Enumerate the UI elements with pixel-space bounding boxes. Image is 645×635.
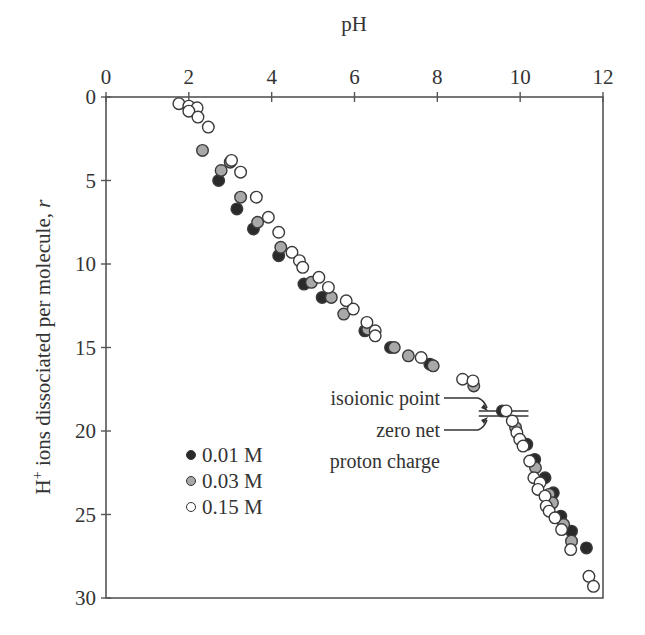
y-tick-label: 5 [86, 169, 97, 193]
y-tick-label: 10 [75, 252, 96, 276]
y-title-superscript: + [30, 471, 45, 479]
plot-frame [106, 97, 603, 598]
x-tick-label: 8 [432, 65, 443, 89]
legend-item-0.03M: 0.03 M [187, 469, 264, 493]
data-point [524, 455, 536, 467]
data-point [506, 415, 518, 427]
data-point [347, 303, 359, 315]
data-point [235, 166, 247, 178]
data-point [588, 581, 600, 593]
legend-label: 0.01 M [202, 443, 263, 467]
data-point [197, 145, 209, 157]
arrow-zero-net [444, 420, 487, 430]
data-point [369, 330, 381, 342]
data-point [273, 226, 285, 238]
data-point [457, 373, 469, 385]
data-point [517, 440, 529, 452]
data-point [415, 352, 427, 364]
x-axis-title: pH [341, 12, 367, 36]
legend-label: 0.15 M [202, 495, 263, 519]
x-tick-label: 12 [593, 65, 614, 89]
y-tick-label: 15 [75, 336, 96, 360]
data-point [263, 211, 275, 223]
x-tick-label: 10 [510, 65, 531, 89]
annotation-zero-net: zero net [376, 419, 440, 441]
data-point [192, 111, 204, 123]
legend-marker-gray-icon [187, 477, 196, 486]
y-tick-label: 20 [75, 419, 96, 443]
legend-item-0.01M: 0.01 M [187, 443, 264, 467]
series-0.01M [213, 175, 592, 554]
data-point [313, 272, 325, 284]
data-point [581, 542, 593, 554]
data-point [403, 350, 415, 362]
annotation-proton-charge: proton charge [330, 450, 440, 473]
arrow-isoionic [444, 398, 487, 408]
legend-item-0.15M: 0.15 M [187, 495, 264, 519]
y-title-h: H [31, 479, 55, 494]
legend-marker-open-icon [187, 503, 196, 512]
data-point [297, 262, 309, 274]
data-point [556, 524, 568, 536]
annotation-isoionic-point: isoionic point [331, 387, 441, 410]
x-tick-label: 4 [266, 65, 277, 89]
data-point [467, 375, 479, 387]
y-axis-title: H+ ions dissociated per molecule, r [30, 199, 55, 495]
data-point [231, 203, 243, 215]
y-title-text: ions dissociated per molecule, [31, 208, 55, 472]
titration-chart: 024681012 051015202530 pH H+ ions dissoc… [0, 0, 645, 635]
legend-marker-filled-icon [187, 451, 196, 460]
data-point [388, 342, 400, 354]
x-tick-label: 0 [101, 65, 112, 89]
data-point [427, 360, 439, 372]
data-point [323, 282, 335, 294]
data-point [202, 121, 214, 133]
x-tick-label: 2 [184, 65, 195, 89]
y-tick-label: 0 [86, 85, 97, 109]
data-point [251, 191, 263, 203]
data-point [565, 544, 577, 556]
data-point [226, 155, 238, 167]
y-tick-label: 30 [75, 586, 96, 610]
y-title-variable: r [31, 199, 55, 208]
legend-label: 0.03 M [202, 469, 263, 493]
data-point [275, 242, 287, 254]
x-tick-label: 6 [349, 65, 360, 89]
y-tick-label: 25 [75, 503, 96, 527]
data-point [215, 165, 227, 177]
annotations: isoionic point zero net proton charge [330, 387, 488, 473]
data-point [235, 191, 247, 203]
legend: 0.01 M 0.03 M 0.15 M [187, 443, 264, 519]
data-point [549, 512, 561, 524]
data-point [252, 216, 264, 228]
plot-border [106, 97, 603, 598]
